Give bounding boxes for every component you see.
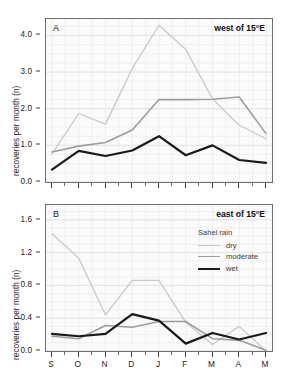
series-line-wet	[52, 136, 266, 169]
series-line-moderate	[52, 97, 266, 152]
y-tick-label: 1.0	[21, 140, 32, 149]
x-tick-mark	[51, 183, 52, 188]
x-tick-label: J	[156, 359, 160, 369]
legend-swatch-dry	[198, 245, 220, 246]
panel-b-title: east of 15°E	[216, 209, 265, 219]
x-tick-label: S	[48, 359, 54, 369]
x-tick-mark	[185, 183, 186, 188]
x-tick-mark	[212, 183, 213, 188]
x-minor-tick-mark	[252, 352, 253, 355]
panel-a: recoveries per month (n) 0.01.02.03.04.0…	[0, 0, 281, 196]
legend-entries: drymoderatewet	[198, 242, 258, 273]
figure-root: recoveries per month (n) 0.01.02.03.04.0…	[0, 0, 281, 383]
y-tick-mark	[36, 144, 40, 145]
series-line-wet	[52, 314, 266, 344]
legend-label-wet: wet	[226, 265, 238, 273]
x-minor-tick-mark	[145, 183, 146, 186]
x-tick-mark	[265, 183, 266, 188]
x-minor-tick-mark	[171, 352, 172, 355]
x-minor-tick-mark	[91, 352, 92, 355]
legend-swatch-wet	[198, 268, 220, 270]
x-tick-mark	[105, 183, 106, 188]
panel-b-letter: B	[53, 209, 59, 219]
x-tick-label: M	[262, 359, 269, 369]
y-tick-mark	[36, 34, 40, 35]
panel-b-series-lines	[46, 205, 272, 351]
y-tick-label: 4.0	[21, 30, 32, 39]
y-tick-mark	[36, 284, 40, 285]
x-minor-tick-mark	[225, 183, 226, 186]
x-tick-mark	[238, 352, 239, 357]
x-tick-mark	[185, 352, 186, 357]
x-tick-mark	[105, 352, 106, 357]
y-tick-label: 3.0	[21, 67, 32, 76]
x-minor-tick-mark	[64, 352, 65, 355]
x-minor-tick-mark	[91, 183, 92, 186]
y-tick-label: 1.2	[21, 247, 32, 256]
x-minor-tick-mark	[198, 183, 199, 186]
x-minor-tick-mark	[225, 352, 226, 355]
y-tick-mark	[36, 71, 40, 72]
x-minor-tick-mark	[118, 183, 119, 186]
x-tick-mark	[131, 183, 132, 188]
x-minor-tick-mark	[64, 183, 65, 186]
x-tick-label: M	[208, 359, 215, 369]
legend-swatch-moderate	[198, 256, 220, 257]
x-minor-tick-mark	[171, 183, 172, 186]
y-tick-label: 0.8	[21, 280, 32, 289]
x-tick-label: F	[182, 359, 187, 369]
x-minor-tick-mark	[252, 183, 253, 186]
y-tick-mark	[36, 218, 40, 219]
panel-b-plot-area: B east of 15°E Sahel rain drymoderatewet	[45, 204, 273, 352]
x-tick-mark	[131, 352, 132, 357]
legend: Sahel rain drymoderatewet	[198, 229, 258, 276]
panel-a-y-tick-labels: 0.01.02.03.04.0	[14, 0, 40, 196]
legend-label-dry: dry	[226, 242, 237, 250]
y-tick-label: 0.0	[21, 177, 32, 186]
y-tick-mark	[36, 181, 40, 182]
y-tick-mark	[36, 317, 40, 318]
panel-a-letter: A	[53, 23, 59, 33]
y-tick-mark	[36, 350, 40, 351]
legend-title: Sahel rain	[198, 229, 258, 237]
x-tick-mark	[212, 352, 213, 357]
panel-b-x-axis: SONDJFMAM	[45, 352, 273, 376]
panel-a-title: west of 15°E	[214, 23, 265, 33]
y-tick-mark	[36, 251, 40, 252]
x-tick-mark	[265, 352, 266, 357]
series-line-dry	[52, 25, 266, 154]
x-tick-label: D	[128, 359, 134, 369]
panel-b-y-tick-labels: 0.00.40.81.21.6	[14, 190, 40, 383]
x-tick-mark	[78, 352, 79, 357]
x-tick-mark	[158, 183, 159, 188]
legend-entry-wet: wet	[198, 265, 258, 273]
x-tick-label: N	[101, 359, 107, 369]
y-tick-label: 0.0	[21, 346, 32, 355]
panel-a-series-lines	[46, 19, 272, 182]
y-tick-mark	[36, 107, 40, 108]
y-tick-label: 1.6	[21, 214, 32, 223]
x-tick-mark	[51, 352, 52, 357]
x-minor-tick-mark	[118, 352, 119, 355]
x-tick-mark	[78, 183, 79, 188]
legend-entry-dry: dry	[198, 242, 258, 250]
x-tick-label: A	[235, 359, 241, 369]
legend-entry-moderate: moderate	[198, 253, 258, 261]
x-minor-tick-mark	[145, 352, 146, 355]
legend-label-moderate: moderate	[226, 253, 258, 261]
x-tick-mark	[238, 183, 239, 188]
x-tick-label: O	[74, 359, 81, 369]
panel-b: recoveries per month (n) 0.00.40.81.21.6…	[0, 190, 281, 383]
y-tick-label: 0.4	[21, 313, 32, 322]
panel-a-plot-area: A west of 15°E	[45, 18, 273, 183]
x-tick-mark	[158, 352, 159, 357]
y-tick-label: 2.0	[21, 103, 32, 112]
x-minor-tick-mark	[198, 352, 199, 355]
